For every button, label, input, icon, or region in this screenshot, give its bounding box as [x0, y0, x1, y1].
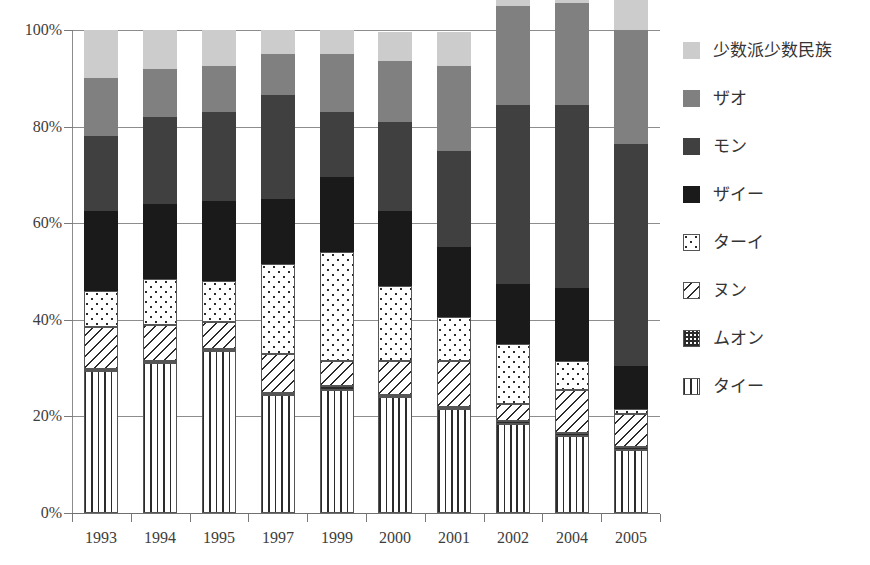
bar-segment[interactable]	[496, 0, 530, 6]
bar-segment[interactable]	[202, 66, 236, 112]
bar-segment[interactable]	[614, 409, 648, 414]
bar-segment[interactable]	[555, 390, 589, 433]
legend-item[interactable]: ザオ	[683, 74, 868, 122]
bar-segment[interactable]	[320, 361, 354, 386]
bar-segment[interactable]	[320, 386, 354, 390]
bar-segment[interactable]	[261, 264, 295, 353]
bar-stack[interactable]	[378, 30, 412, 513]
bar-segment[interactable]	[202, 112, 236, 201]
bar-stack[interactable]	[202, 30, 236, 513]
legend-item[interactable]: ヌン	[683, 266, 868, 314]
bar-segment[interactable]	[261, 95, 295, 199]
bar-segment[interactable]	[555, 288, 589, 360]
bar-segment[interactable]	[614, 414, 648, 447]
bar-segment[interactable]	[320, 112, 354, 177]
bar-segment[interactable]	[261, 393, 295, 395]
bar-stack[interactable]	[84, 30, 118, 513]
bar-segment[interactable]	[84, 327, 118, 369]
bar-segment[interactable]	[378, 32, 412, 61]
bar-segment[interactable]	[378, 361, 412, 395]
bar-segment[interactable]	[143, 69, 177, 117]
legend-item[interactable]: ザイー	[683, 170, 868, 218]
bar-segment[interactable]	[84, 136, 118, 211]
bar-segment[interactable]	[320, 54, 354, 112]
bar-segment[interactable]	[555, 105, 589, 289]
bar-segment[interactable]	[84, 371, 118, 513]
bar-segment[interactable]	[202, 351, 236, 513]
bar-segment[interactable]	[555, 361, 589, 390]
bar-segment[interactable]	[378, 286, 412, 361]
bar-segment[interactable]	[202, 281, 236, 322]
bar-segment[interactable]	[614, 0, 648, 30]
legend-item[interactable]: タイー	[683, 362, 868, 410]
bar-segment[interactable]	[437, 32, 471, 66]
bar-segment[interactable]	[143, 204, 177, 279]
legend-swatch-vertical-pattern	[683, 378, 700, 395]
bar-stack[interactable]	[496, 30, 530, 513]
bar-segment[interactable]	[143, 30, 177, 69]
bar-segment[interactable]	[261, 54, 295, 95]
legend-item[interactable]: ムオン	[683, 314, 868, 362]
bar-segment[interactable]	[614, 366, 648, 409]
bar-segment[interactable]	[496, 6, 530, 105]
bar-segment[interactable]	[437, 247, 471, 317]
bar-segment[interactable]	[555, 436, 589, 513]
bar-segment[interactable]	[84, 30, 118, 78]
bar-stack[interactable]	[614, 30, 648, 513]
bar-segment[interactable]	[437, 151, 471, 248]
bar-segment[interactable]	[320, 252, 354, 361]
bar-segment[interactable]	[614, 447, 648, 450]
bar-segment[interactable]	[437, 66, 471, 151]
bar-segment[interactable]	[202, 322, 236, 349]
bar-segment[interactable]	[202, 30, 236, 66]
bar-segment[interactable]	[496, 404, 530, 420]
bar-stack[interactable]	[143, 30, 177, 513]
bar-segment[interactable]	[496, 424, 530, 513]
bar-segment[interactable]	[437, 361, 471, 407]
bar-segment[interactable]	[496, 344, 530, 404]
bar-segment[interactable]	[614, 450, 648, 513]
bar-segment[interactable]	[320, 30, 354, 54]
bar-segment[interactable]	[437, 317, 471, 360]
bar-segment[interactable]	[378, 211, 412, 286]
bar-segment[interactable]	[143, 325, 177, 362]
bar-segment[interactable]	[437, 409, 471, 513]
bar-segment[interactable]	[261, 354, 295, 393]
bar-segment[interactable]	[496, 284, 530, 344]
bar-segment[interactable]	[496, 105, 530, 284]
bar-segment[interactable]	[437, 407, 471, 409]
bar-segment[interactable]	[496, 421, 530, 424]
bar-segment[interactable]	[143, 363, 177, 513]
bar-segment[interactable]	[614, 144, 648, 366]
bar-stack[interactable]	[555, 30, 589, 513]
bar-segment[interactable]	[555, 0, 589, 3]
bar-stack[interactable]	[437, 30, 471, 513]
bar-segment[interactable]	[143, 117, 177, 204]
y-tick-mark	[64, 30, 73, 31]
bar-stack[interactable]	[320, 30, 354, 513]
bar-segment[interactable]	[320, 390, 354, 513]
bar-segment[interactable]	[378, 397, 412, 513]
bar-segment[interactable]	[84, 291, 118, 327]
bar-segment[interactable]	[143, 361, 177, 363]
bar-segment[interactable]	[84, 369, 118, 371]
bar-segment[interactable]	[84, 211, 118, 291]
bar-segment[interactable]	[378, 395, 412, 397]
legend-item[interactable]: 少数派少数民族	[683, 26, 868, 74]
bar-segment[interactable]	[555, 3, 589, 104]
bar-segment[interactable]	[261, 30, 295, 54]
bar-segment[interactable]	[555, 433, 589, 436]
bar-segment[interactable]	[261, 395, 295, 513]
bar-segment[interactable]	[202, 201, 236, 281]
bar-segment[interactable]	[378, 61, 412, 121]
bar-segment[interactable]	[378, 122, 412, 211]
bar-segment[interactable]	[320, 177, 354, 252]
legend-item[interactable]: モン	[683, 122, 868, 170]
bar-stack[interactable]	[261, 30, 295, 513]
bar-segment[interactable]	[143, 279, 177, 325]
bar-segment[interactable]	[614, 30, 648, 144]
bar-segment[interactable]	[261, 199, 295, 264]
bar-segment[interactable]	[202, 349, 236, 351]
bar-segment[interactable]	[84, 78, 118, 136]
legend-item[interactable]: ターイ	[683, 218, 868, 266]
